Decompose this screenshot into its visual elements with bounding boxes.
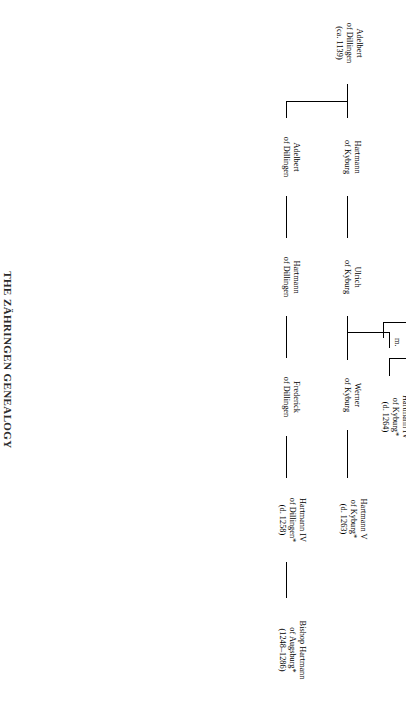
person-ulrich-kyburg: Ulrich of Kyburg [342, 240, 362, 314]
person-line-1: Hartmann IV [400, 378, 406, 456]
connector-dillingen-2 [286, 316, 287, 358]
person-line-3: (d. 1264) [381, 378, 391, 456]
person-line-1: Adelbert [354, 4, 364, 82]
person-line-1: Ulrich [352, 240, 362, 314]
person-line-3: (d. 1263) [339, 480, 349, 558]
connector-dillingen-4 [286, 562, 287, 598]
person-line-2: of Kyburg [342, 240, 352, 314]
connector-kyburg-2 [347, 430, 348, 478]
person-line-2: of Kyburg [342, 120, 352, 194]
person-line-2: of Dillingen* [287, 480, 297, 560]
person-line-1: Bishop Hartmann [297, 598, 307, 702]
connector-ulrich-to-marriage [389, 332, 390, 348]
person-line-1: Adelbert [291, 120, 301, 194]
person-line-3: (d. 1258) [278, 480, 288, 560]
connector-adelbert-bracket [287, 101, 348, 102]
person-line-1: Frederick [291, 360, 301, 434]
person-line-2: of Kyburg* [390, 378, 400, 456]
person-line-1: Hartmann IV [297, 480, 307, 560]
person-hartmann-v-kyburg: Hartmann V of Kyburg* (d. 1263) [339, 480, 368, 558]
connector-ulrich-stem [347, 316, 348, 332]
person-frederick-dillingen: Frederick of Dillingen [281, 360, 301, 434]
person-adelbert-dillingen-jr: Adelbert of Dillingen [281, 120, 301, 194]
connector-ulrich-to-werner [347, 332, 348, 360]
person-line-2: of Dillingen [281, 240, 291, 314]
person-line-3: (ca. 1139) [335, 4, 345, 82]
person-bishop-hartmann-augsburg: Bishop Hartmann of Augsburg* (1248–1286) [278, 598, 307, 702]
connector-marriage1-to-hartmann [389, 358, 390, 376]
person-hartmann-iv-dillingen: Hartmann IV of Dillingen* (d. 1258) [278, 480, 307, 560]
person-line-2: of Dillingen [281, 360, 291, 434]
connector-adelbert-stem [347, 84, 348, 101]
person-line-1: Hartmann [352, 120, 362, 194]
person-line-1: Werner [352, 362, 362, 428]
person-line-2: of Kyburg [342, 362, 352, 428]
connector-kyburg-1 [347, 196, 348, 238]
page-title: THE ZÄHRINGEN GENEALOGY [2, 40, 14, 680]
person-line-2: of Dillingen [281, 120, 291, 194]
person-hartmann-kyburg: Hartmann of Kyburg [342, 120, 362, 194]
person-line-3: (1248–1286) [278, 598, 288, 702]
marriage-label-1: m. [392, 338, 402, 347]
person-line-2: of Dillingen [344, 4, 354, 82]
person-line-2: of Kyburg* [348, 480, 358, 558]
person-hartmann-dillingen: Hartmann of Dillingen [281, 240, 301, 314]
connector-dillingen-1 [286, 196, 287, 238]
person-line-1: Hartmann [291, 240, 301, 314]
connector-marriage1-bracket [390, 358, 406, 359]
connector-berthold-to-anna [383, 322, 384, 338]
person-adelbert-dillingen-sr: Adelbert of Dillingen (ca. 1139) [335, 4, 364, 82]
person-werner-kyburg: Werner of Kyburg [342, 362, 362, 428]
connector-adelbert-to-dillingen [286, 101, 287, 118]
person-line-2: of Augsburg* [287, 598, 297, 702]
connector-adelbert-to-kyburg [347, 101, 348, 118]
person-line-1: Hartmann V [358, 480, 368, 558]
genealogy-chart: THE ZÄHRINGEN GENEALOGY Adelbert of Dill… [0, 0, 406, 707]
person-hartmann-iv-kyburg: Hartmann IV of Kyburg* (d. 1264) [381, 378, 406, 456]
connector-dillingen-3 [286, 436, 287, 478]
connector-berthold-bracket [384, 322, 406, 323]
